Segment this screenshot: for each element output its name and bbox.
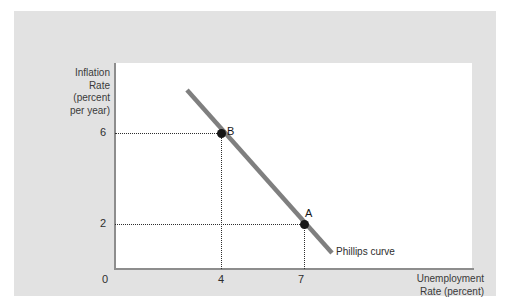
data-point-b [217,129,226,138]
figure-panel: B A Phillips curve Inflation Rate (perce… [14,11,496,296]
x-axis-title-line-1: Unemployment [364,273,484,286]
x-axis-tick-4: 4 [214,273,228,285]
phillips-curve-line [114,63,472,269]
x-axis-tick-0: 0 [98,273,112,285]
y-axis-tick-2: 2 [92,217,106,229]
x-axis-title: Unemployment Rate (percent) [364,273,484,298]
x-axis-tick-7: 7 [294,273,308,285]
chart-screenshot: B A Phillips curve Inflation Rate (perce… [0,0,508,308]
x-axis-title-line-2: Rate (percent) [364,286,484,299]
data-point-a [300,220,309,229]
y-axis-title-line-1: Inflation [34,67,110,80]
y-axis-title-line-2: Rate [34,80,110,93]
y-axis-tick-6: 6 [92,126,106,138]
data-point-a-label: A [305,207,312,219]
data-point-b-label: B [227,125,234,137]
y-axis-title-line-4: per year) [34,105,110,118]
y-axis-title: Inflation Rate (percent per year) [34,67,110,117]
phillips-curve-label: Phillips curve [336,246,395,257]
y-axis-title-line-3: (percent [34,92,110,105]
